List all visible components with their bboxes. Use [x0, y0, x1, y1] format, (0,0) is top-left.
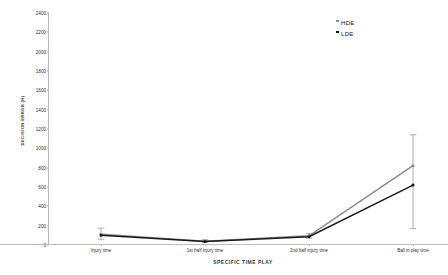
data-point-lde	[204, 240, 207, 243]
x-axis-tick-label: Injury time	[91, 248, 112, 253]
y-axis-title: DECISION ERROR (H)	[20, 66, 25, 176]
x-axis-title: SPECIFIC TIME PLAY	[48, 259, 438, 265]
y-axis-tick-mark	[47, 32, 49, 33]
data-point-lde	[412, 184, 415, 187]
series-line-lde	[101, 185, 413, 242]
data-point-lde	[308, 235, 311, 238]
data-point-hde	[412, 164, 415, 167]
y-axis-tick-mark	[47, 225, 49, 226]
legend-item-lde[interactable]: LDE	[336, 28, 355, 39]
error-bar	[410, 135, 416, 229]
legend-label: HDE	[341, 19, 355, 26]
x-axis-tick-label: 1st half injury time	[187, 248, 223, 253]
legend-label: LDE	[341, 30, 354, 37]
y-axis-tick-mark	[47, 71, 49, 72]
y-axis-tick-mark	[47, 109, 49, 110]
y-axis-tick-mark	[47, 13, 49, 14]
chart-legend: HDELDE	[336, 17, 355, 39]
figure-bottom-rule	[0, 244, 448, 245]
y-axis-tick-mark	[47, 187, 49, 188]
y-axis-tick-mark	[47, 90, 49, 91]
plot-area: 0200400600800100012001400160018002000220…	[48, 13, 438, 245]
series-layer	[49, 13, 439, 245]
y-axis-tick-mark	[47, 51, 49, 52]
y-axis-tick-mark	[47, 206, 49, 207]
legend-item-hde[interactable]: HDE	[336, 17, 355, 28]
chart-figure: DECISION ERROR (H) 020040060080010001200…	[0, 0, 448, 275]
legend-marker-icon	[336, 20, 339, 23]
legend-marker-icon	[336, 31, 339, 34]
y-axis-tick-mark	[47, 129, 49, 130]
series-line-hde	[101, 166, 413, 241]
y-axis-tick-mark	[47, 167, 49, 168]
x-axis-tick-label: Ball in play time	[397, 248, 429, 253]
data-point-lde	[100, 234, 103, 237]
y-axis-tick-mark	[47, 148, 49, 149]
x-axis-tick-label: 2nd half injury time	[290, 248, 328, 253]
